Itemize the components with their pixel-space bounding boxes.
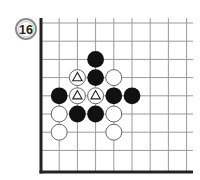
black-stone-icon (87, 106, 104, 123)
black-stone-icon (87, 69, 104, 86)
white-stone-icon (106, 106, 122, 122)
white-stone-icon (106, 124, 122, 140)
black-stone-icon (87, 51, 104, 68)
black-stone (87, 106, 104, 123)
go-diagram: 16 (0, 0, 200, 180)
black-stone-icon (69, 106, 86, 123)
black-stone (51, 87, 68, 104)
black-stone-icon (51, 87, 68, 104)
white-stone (69, 88, 85, 104)
white-stone-icon (51, 106, 67, 122)
black-stone (87, 69, 104, 86)
white-stone (106, 124, 122, 140)
white-stone (88, 88, 104, 104)
black-stone (105, 87, 122, 104)
white-stone (69, 70, 85, 86)
white-stone-icon (51, 124, 67, 140)
white-stone (106, 106, 122, 122)
black-stone (69, 106, 86, 123)
problem-number: 16 (19, 23, 33, 37)
black-stone (87, 51, 104, 68)
white-stone (51, 124, 67, 140)
black-stone-icon (124, 87, 141, 104)
white-stone (51, 106, 67, 122)
white-stone (106, 70, 122, 86)
white-stone-icon (106, 70, 122, 86)
black-stone (124, 87, 141, 104)
problem-badge: 16 (16, 19, 36, 39)
black-stone-icon (105, 87, 122, 104)
